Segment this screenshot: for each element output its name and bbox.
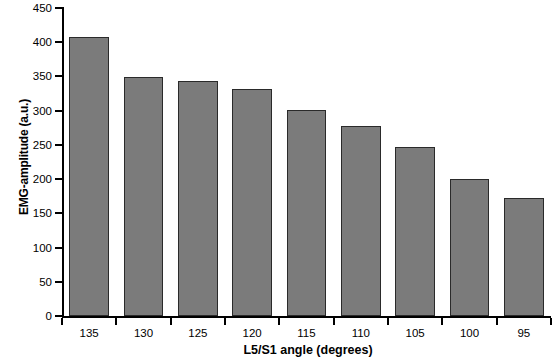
bar-chart: EMG-amplitude (a.u.) 0501001502002503003… — [0, 0, 554, 364]
y-tick-label: 400 — [4, 36, 52, 48]
y-tick-label: 350 — [4, 70, 52, 82]
x-axis-line — [62, 316, 551, 318]
x-tick-mark — [170, 318, 172, 325]
x-tick-mark — [496, 318, 498, 325]
x-tick-mark — [441, 318, 443, 325]
bar — [341, 126, 381, 316]
bar — [450, 179, 490, 316]
y-tick-label: 300 — [4, 105, 52, 117]
x-tick-label: 135 — [59, 327, 119, 339]
x-tick-mark — [278, 318, 280, 325]
y-tick-label: 200 — [4, 173, 52, 185]
x-tick-label: 130 — [114, 327, 174, 339]
x-tick-mark — [224, 318, 226, 325]
y-tick-mark — [55, 247, 62, 249]
x-tick-mark — [115, 318, 117, 325]
bar — [232, 89, 272, 316]
x-tick-label: 100 — [440, 327, 500, 339]
y-tick-label: 50 — [4, 276, 52, 288]
x-tick-mark — [61, 318, 63, 325]
y-tick-label: 0 — [4, 310, 52, 322]
x-tick-label: 110 — [331, 327, 391, 339]
y-tick-label: 250 — [4, 139, 52, 151]
y-tick-label: 100 — [4, 242, 52, 254]
y-tick-mark — [55, 144, 62, 146]
y-tick-label: 150 — [4, 207, 52, 219]
bar — [69, 37, 109, 316]
x-tick-mark — [387, 318, 389, 325]
x-tick-mark — [550, 318, 552, 325]
y-tick-mark — [55, 281, 62, 283]
y-tick-mark — [55, 212, 62, 214]
bar — [504, 198, 544, 316]
x-tick-label: 115 — [277, 327, 337, 339]
x-tick-mark — [333, 318, 335, 325]
y-tick-mark — [55, 110, 62, 112]
bar — [287, 110, 327, 316]
y-tick-mark — [55, 178, 62, 180]
x-tick-label: 95 — [494, 327, 554, 339]
bar — [124, 77, 164, 316]
y-tick-label: 450 — [4, 2, 52, 14]
y-tick-mark — [55, 41, 62, 43]
x-tick-label: 120 — [222, 327, 282, 339]
x-tick-label: 105 — [385, 327, 445, 339]
y-tick-mark — [55, 7, 62, 9]
y-tick-mark — [55, 315, 62, 317]
x-tick-label: 125 — [168, 327, 228, 339]
bar — [178, 81, 218, 316]
y-axis-line — [62, 7, 64, 318]
y-tick-mark — [55, 75, 62, 77]
bar — [395, 147, 435, 316]
x-axis-title: L5/S1 angle (degrees) — [0, 343, 554, 357]
